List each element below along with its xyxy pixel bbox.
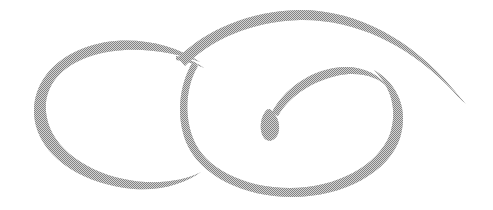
flourish-illustration bbox=[0, 0, 493, 210]
artwork-canvas: Calligraphic Flourish Ornament bbox=[0, 0, 493, 210]
ink-dither-texture bbox=[0, 0, 493, 210]
